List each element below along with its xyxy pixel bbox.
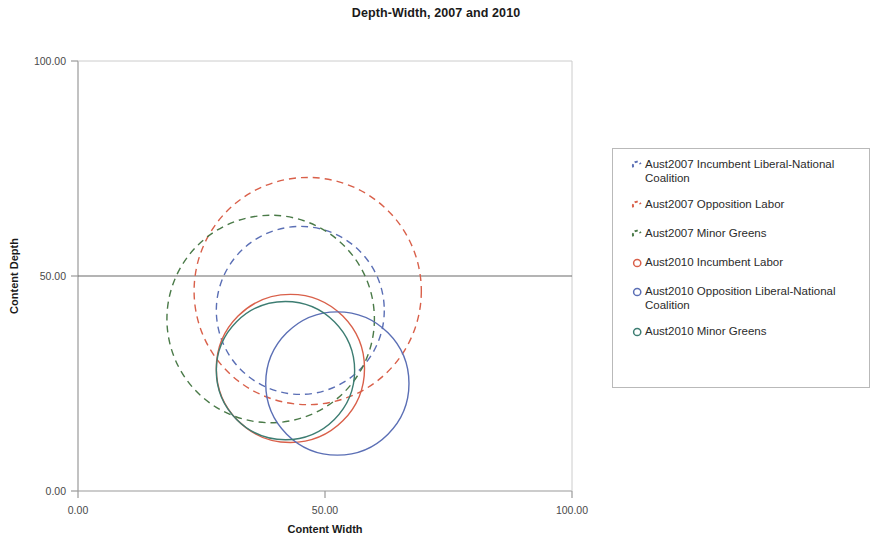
legend-item[interactable]: Aust2007 Incumbent Liberal-National Coal… (613, 157, 869, 185)
dashed-arc-icon (631, 158, 644, 172)
legend-item-label: Aust2010 Opposition Liberal-National Coa… (645, 284, 836, 312)
y-tick-label-0: 0.00 (46, 485, 67, 497)
legend-item[interactable]: Aust2010 Incumbent Labor (613, 255, 869, 272)
circle-outline-icon (631, 325, 644, 339)
legend-item[interactable]: Aust2010 Minor Greens (613, 324, 869, 341)
x-tick-label-50: 50.00 (312, 504, 338, 516)
y-axis-ticks (71, 61, 78, 491)
series-circles (167, 177, 421, 455)
dashed-arc-icon (631, 227, 644, 241)
x-tick-label-100: 100.00 (556, 504, 588, 516)
legend: Aust2007 Incumbent Liberal-National Coal… (612, 148, 870, 388)
legend-item-label: Aust2010 Incumbent Labor (645, 255, 783, 269)
legend-item-label: Aust2007 Opposition Labor (645, 197, 784, 211)
x-axis-ticks (78, 491, 572, 498)
series-circle (216, 301, 354, 439)
x-tick-label-0: 0.00 (68, 504, 89, 516)
y-axis-title: Content Depth (8, 238, 20, 314)
series-circle (194, 177, 421, 404)
series-circle (216, 226, 384, 394)
circle-outline-icon (631, 285, 644, 299)
legend-item[interactable]: Aust2010 Opposition Liberal-National Coa… (613, 284, 869, 312)
series-circle (266, 312, 409, 455)
x-axis-title: Content Width (287, 523, 362, 535)
y-tick-label-50: 50.00 (40, 270, 66, 282)
dashed-arc-icon (631, 198, 644, 212)
legend-item[interactable]: Aust2007 Opposition Labor (613, 197, 869, 214)
chart-container: Depth-Width, 2007 and 2010 100.00 50.00 … (0, 0, 872, 537)
circle-outline-icon (631, 256, 644, 270)
legend-item-label: Aust2007 Incumbent Liberal-National Coal… (645, 157, 834, 185)
legend-item[interactable]: Aust2007 Minor Greens (613, 226, 869, 243)
series-circle (216, 294, 364, 442)
y-tick-label-100: 100.00 (34, 55, 66, 67)
legend-item-label: Aust2010 Minor Greens (645, 324, 766, 338)
legend-list: Aust2007 Incumbent Liberal-National Coal… (613, 149, 869, 387)
legend-item-label: Aust2007 Minor Greens (645, 226, 766, 240)
